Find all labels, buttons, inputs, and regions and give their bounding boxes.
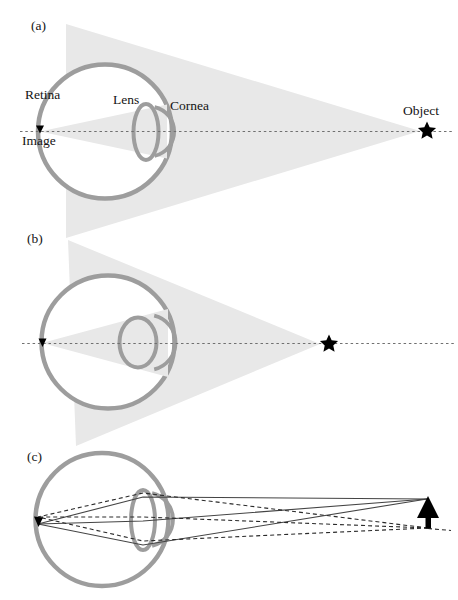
cornea-label: Cornea <box>170 99 209 113</box>
object-star-b <box>320 335 338 352</box>
object-label: Object <box>403 104 439 118</box>
panel-a-tag: (a) <box>31 19 46 33</box>
eye-optics-figure <box>0 0 458 600</box>
lens-label: Lens <box>113 93 139 107</box>
image-label: Image <box>22 134 56 148</box>
panel-b-tag: (b) <box>27 232 43 246</box>
object-arrow-stem <box>426 517 432 529</box>
panel-c-tag: (c) <box>27 450 42 464</box>
base-ray-tail <box>428 529 451 531</box>
figure-canvas: (a) Retina Lens Cornea Image Object (b) … <box>0 0 458 600</box>
panel-c <box>34 453 451 586</box>
retina-label: Retina <box>25 88 60 102</box>
object-arrow-c <box>417 496 439 529</box>
object-star-a <box>418 122 436 139</box>
panel-a <box>20 24 452 238</box>
panel-b <box>22 240 454 446</box>
